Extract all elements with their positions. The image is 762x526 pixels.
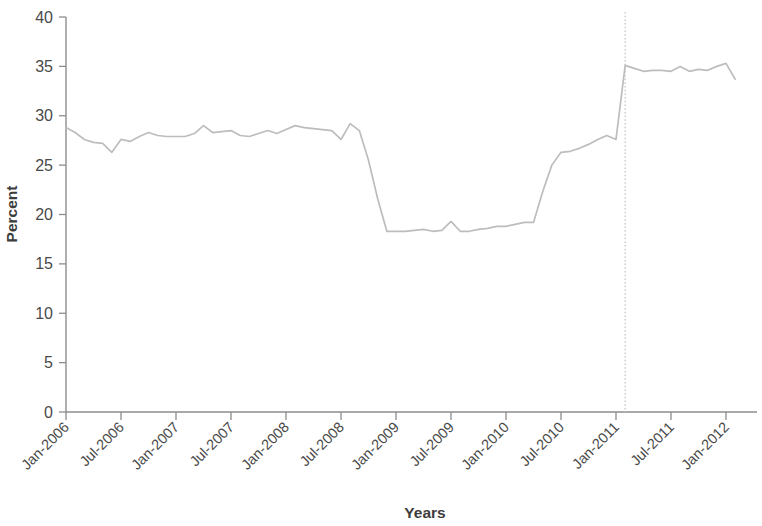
x-tick-label: Jul-2006 [76,419,127,470]
x-tick-label: Jul-2009 [406,419,457,470]
y-tick-label: 15 [35,255,53,272]
y-tick-label: 20 [35,206,53,223]
percent-series-line [66,63,735,231]
y-tick-label: 10 [35,305,53,322]
y-tick-label: 35 [35,58,53,75]
x-tick-label: Jan-2008 [238,419,292,473]
y-tick-label-group: 0510152025303540 [35,9,53,421]
y-tick-label: 40 [35,9,53,26]
x-tick-label: Jan-2009 [348,419,402,473]
x-tick-label: Jan-2007 [128,419,182,473]
series-group [66,63,735,231]
x-tick-label: Jul-2008 [296,419,347,470]
y-axis-group: 0510152025303540 Percent [3,9,66,421]
x-tick-group [66,412,726,420]
y-tick-group [59,17,66,412]
x-tick-label: Jan-2012 [678,419,732,473]
x-tick-label: Jul-2010 [516,419,567,470]
y-tick-label: 5 [44,354,53,371]
x-axis-group: Jan-2006Jul-2006Jan-2007Jul-2007Jan-2008… [18,412,757,521]
x-tick-label: Jul-2011 [627,419,677,469]
x-tick-label: Jan-2010 [458,419,512,473]
chart-canvas: 0510152025303540 Percent Jan-2006Jul-200… [0,0,762,526]
x-tick-label: Jan-2011 [569,419,622,472]
x-tick-label-group: Jan-2006Jul-2006Jan-2007Jul-2007Jan-2008… [18,419,732,473]
x-tick-label: Jan-2006 [18,419,72,473]
line-chart: 0510152025303540 Percent Jan-2006Jul-200… [0,0,762,526]
x-axis-label: Years [404,504,445,521]
y-axis-label: Percent [3,186,20,243]
x-tick-label: Jul-2007 [186,419,237,470]
y-tick-label: 30 [35,107,53,124]
y-tick-label: 0 [44,404,53,421]
y-tick-label: 25 [35,157,53,174]
